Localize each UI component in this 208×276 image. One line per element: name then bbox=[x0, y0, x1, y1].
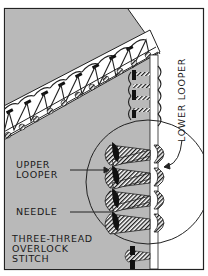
label-upper-looper-line2: LOOPER bbox=[16, 170, 58, 180]
label-lower-looper: LOWER LOOPER bbox=[176, 24, 190, 142]
label-needle: NEEDLE bbox=[16, 207, 57, 217]
overlock-stitch-diagram: LOWER LOOPER UPPER LOOPER NEEDLE THREE-T… bbox=[0, 0, 208, 276]
caption-line3: STITCH bbox=[12, 254, 49, 264]
